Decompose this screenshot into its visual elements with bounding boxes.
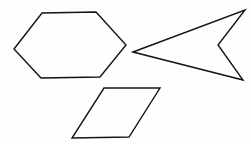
shapes-svg (0, 0, 251, 144)
drawing-canvas (0, 0, 251, 144)
